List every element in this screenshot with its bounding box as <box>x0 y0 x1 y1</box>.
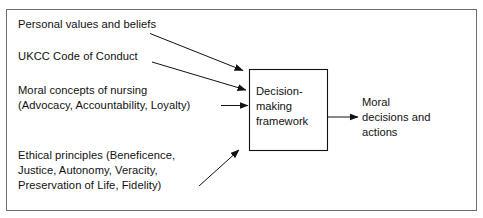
output-label-moral-decisions-and-actions: Moral decisions and actions <box>362 95 430 140</box>
diagram-canvas: Personal values and beliefs UKCC Code of… <box>0 0 483 218</box>
input-label-moral-concepts: Moral concepts of nursing (Advocacy, Acc… <box>18 83 190 113</box>
input-label-personal-values: Personal values and beliefs <box>18 17 156 32</box>
decision-framework-box-label: Decision- making framework <box>256 84 324 129</box>
input-label-ukcc-code: UKCC Code of Conduct <box>18 49 138 64</box>
input-label-ethical-principles: Ethical principles (Beneficence, Justice… <box>18 148 175 193</box>
